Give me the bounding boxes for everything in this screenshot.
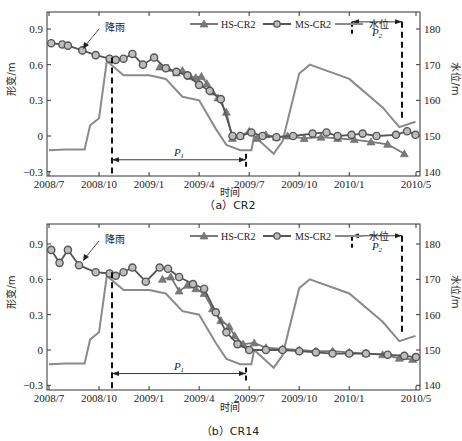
- ms-marker: [48, 40, 55, 47]
- y-left-tick: 0.6: [29, 273, 43, 285]
- ms-marker: [201, 285, 208, 292]
- ms-marker: [56, 259, 63, 266]
- ms-marker: [120, 55, 127, 62]
- p1-label: P1: [173, 146, 184, 160]
- x-tick: 2009/10: [281, 392, 318, 404]
- ms-marker: [206, 87, 213, 94]
- ms-marker: [212, 309, 219, 316]
- ms-marker: [392, 131, 399, 138]
- ms-marker: [164, 265, 171, 272]
- chart-panel-b: 0.90.60.30−0.31801701601501402008/72008/…: [5, 224, 462, 438]
- ms-marker: [142, 278, 149, 285]
- y-left-tick: −0.3: [23, 379, 43, 391]
- legend: HS-CR2MS-CR2水位: [190, 18, 389, 30]
- y-axis-label-right: 水位/m: [450, 275, 462, 308]
- legend-water-label: 水位: [369, 18, 389, 30]
- ms-marker: [223, 329, 230, 336]
- legend-ms-label: MS-CR2: [295, 231, 331, 242]
- ms-marker: [92, 52, 99, 59]
- hs-marker: [197, 73, 205, 80]
- legend-hs-label: HS-CR2: [221, 19, 255, 30]
- ms-marker: [189, 280, 196, 287]
- x-tick: 2009/1: [134, 178, 165, 190]
- ms-marker: [64, 246, 71, 253]
- ms-marker: [323, 129, 330, 136]
- rain-annotation: 降雨: [105, 233, 125, 245]
- ms-marker: [296, 348, 303, 355]
- x-tick: 2009/1: [134, 392, 165, 404]
- legend-water-label: 水位: [369, 230, 389, 242]
- ms-marker: [290, 132, 297, 139]
- ms-marker: [262, 346, 269, 353]
- y-axis-label-right: 水位/m: [450, 62, 462, 95]
- ms-marker: [156, 264, 163, 271]
- y-right-tick: 140: [424, 166, 441, 178]
- y-left-tick: 0: [38, 130, 44, 142]
- ms-marker: [75, 262, 82, 269]
- y-left-tick: 0.9: [29, 238, 43, 250]
- ms-marker: [162, 65, 169, 72]
- ms-marker: [150, 54, 157, 61]
- y-left-tick: 0.3: [29, 309, 43, 321]
- rain-arrow: [85, 29, 99, 46]
- legend-ms-marker: [274, 21, 280, 27]
- rain-arrow: [85, 241, 99, 258]
- ms-marker: [346, 350, 353, 357]
- p1-label: P1: [173, 360, 184, 374]
- y-left-tick: 0: [38, 344, 44, 356]
- ms-marker: [334, 132, 341, 139]
- ms-marker: [112, 272, 119, 279]
- ms-marker: [139, 61, 146, 68]
- y-axis-label-left: 形变/m: [5, 62, 17, 95]
- ms-marker: [234, 341, 241, 348]
- ms-marker: [129, 50, 136, 57]
- ms-marker: [279, 346, 286, 353]
- x-tick: 2009/4: [184, 392, 215, 404]
- ms-marker: [259, 132, 266, 139]
- y-axis-label-left: 形变/m: [5, 275, 17, 308]
- legend-ms-label: MS-CR2: [295, 19, 331, 30]
- y-left-tick: 0.9: [29, 23, 43, 35]
- x-tick: 2009/4: [184, 178, 215, 190]
- legend-ms-marker: [274, 233, 280, 239]
- panel-caption: （a）CR2: [204, 199, 255, 212]
- y-right-tick: 150: [424, 130, 441, 142]
- ms-marker: [173, 68, 180, 75]
- ms-marker: [64, 42, 71, 49]
- y-left-tick: 0.6: [29, 59, 43, 71]
- x-tick: 2010/5: [401, 392, 432, 404]
- ms-marker: [246, 346, 253, 353]
- ms-marker: [373, 132, 380, 139]
- x-tick: 2008/7: [34, 392, 65, 404]
- ms-marker: [120, 269, 127, 276]
- ms-marker: [404, 128, 411, 135]
- ms-marker: [92, 269, 99, 276]
- chart-panel-a: 0.90.60.30−0.31801701601501402008/72008/…: [5, 12, 462, 212]
- x-tick: 2010/1: [334, 392, 365, 404]
- ms-marker: [348, 131, 355, 138]
- ms-marker: [384, 351, 391, 358]
- y-left-tick: 0.3: [29, 94, 43, 106]
- hs-marker: [167, 273, 175, 280]
- ms-marker: [248, 129, 255, 136]
- ms-marker: [129, 264, 136, 271]
- ms-marker: [184, 72, 191, 79]
- x-tick: 2010/1: [334, 178, 365, 190]
- ms-marker: [176, 273, 183, 280]
- ms-marker: [362, 350, 369, 357]
- y-right-tick: 150: [424, 344, 441, 356]
- x-tick: 2009/10: [281, 178, 318, 190]
- legend-hs-label: HS-CR2: [221, 231, 255, 242]
- y-right-tick: 180: [424, 23, 441, 35]
- ms-marker: [79, 47, 86, 54]
- ms-marker: [112, 56, 119, 63]
- y-right-tick: 170: [424, 59, 441, 71]
- x-tick: 2008/7: [34, 178, 65, 190]
- ms-marker: [309, 130, 316, 137]
- panel-caption: （b）CR14: [201, 425, 259, 438]
- ms-marker: [273, 134, 280, 141]
- y-right-tick: 170: [424, 273, 441, 285]
- x-tick: 2008/10: [81, 392, 118, 404]
- ms-marker: [412, 353, 419, 360]
- ms-marker: [312, 349, 319, 356]
